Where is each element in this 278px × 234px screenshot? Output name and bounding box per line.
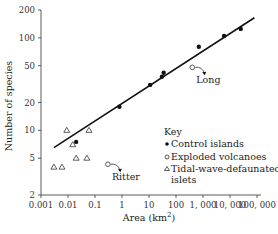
control-island-point xyxy=(197,45,201,49)
legend-label-control: Control islands xyxy=(171,138,244,149)
x-axis-title: Area (km2) xyxy=(122,211,175,223)
x-tick-label: 100 xyxy=(168,200,184,210)
legend-label-volcanoes: Exploded volcanoes xyxy=(171,151,267,162)
x-tick-label: 100, 000 xyxy=(238,200,276,210)
x-tick-label: 0.01 xyxy=(59,200,78,210)
exploded-volcano-point xyxy=(106,162,111,167)
legend-label-islets-cont: islets xyxy=(171,174,196,185)
control-island-point xyxy=(222,34,226,38)
legend: Key Control islands Exploded volcanoes T… xyxy=(164,126,278,185)
control-island-point xyxy=(239,27,243,31)
filled-circle-icon xyxy=(165,142,169,146)
x-tick-label: 0.1 xyxy=(88,200,102,210)
open-circle-icon xyxy=(165,155,169,159)
annotation-label: Ritter xyxy=(112,171,140,182)
y-tick-label: 50 xyxy=(24,61,35,71)
control-island-point xyxy=(74,140,78,144)
y-tick-label: 2 xyxy=(30,190,35,200)
x-tick-label: 10 xyxy=(144,200,155,210)
control-island-point xyxy=(117,105,121,109)
control-island-point xyxy=(160,75,164,79)
defaunated-islet-point xyxy=(64,127,70,132)
defaunated-islet-point xyxy=(51,164,57,169)
x-tick-label: 0.001 xyxy=(29,200,53,210)
control-island-point xyxy=(161,70,165,74)
x-tick-label: 1 xyxy=(119,200,124,210)
defaunated-islet-point xyxy=(59,164,65,169)
open-triangle-icon xyxy=(165,167,170,171)
axis-ticks: 251020501002000.0010.010.11101001, 00010… xyxy=(19,5,276,210)
annotation-label: Long xyxy=(196,74,220,85)
x-tick-label: 1, 000 xyxy=(189,200,216,210)
control-island-point xyxy=(148,83,152,87)
y-tick-label: 5 xyxy=(30,153,35,163)
y-tick-label: 10 xyxy=(24,125,35,135)
y-tick-label: 100 xyxy=(19,33,35,43)
y-axis-title: Number of species xyxy=(3,61,14,152)
defaunated-islet-point xyxy=(84,155,90,160)
y-tick-label: 200 xyxy=(19,5,35,15)
legend-title: Key xyxy=(164,126,182,137)
legend-label-islets: Tidal-wave-defaunated xyxy=(171,163,278,174)
y-tick-label: 20 xyxy=(24,98,35,108)
species-area-chart: 251020501002000.0010.010.11101001, 00010… xyxy=(0,0,278,234)
defaunated-islet-point xyxy=(86,127,92,132)
exploded-volcano-point xyxy=(190,65,195,70)
defaunated-islet-point xyxy=(73,155,79,160)
